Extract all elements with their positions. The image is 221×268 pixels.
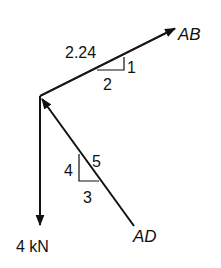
ab-slope-triangle [97,57,124,70]
label-load: 4 kN [16,238,49,255]
label-ad: AD [132,227,157,246]
label-ad-hypotenuse: 5 [92,153,101,170]
diagram-svg: AB 2.24 1 2 4 5 3 AD 4 kN [0,0,221,268]
label-ab-run: 2 [103,76,112,93]
free-body-diagram: AB 2.24 1 2 4 5 3 AD 4 kN [0,0,221,268]
label-ad-run: 3 [83,189,92,206]
label-ab-rise: 1 [127,59,136,76]
force-ad-arrow [42,99,134,226]
label-ab-hypotenuse: 2.24 [65,44,96,61]
label-ad-rise: 4 [64,162,73,179]
label-ab: AB [177,25,201,44]
